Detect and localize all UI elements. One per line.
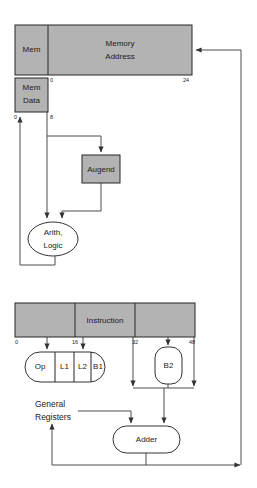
instruction-field-group: Op L1 L2 B1 (25, 352, 105, 382)
general-registers-annotation: General Registers (35, 399, 71, 422)
instruction-bit-16: 16 (72, 339, 78, 345)
wire-adder-to-memory-address (196, 50, 241, 465)
arith-logic-label-line1: Arith, (44, 228, 63, 237)
diagram-canvas: Mem Memory Address 0 24 Mem Data 0 8 Aug… (0, 0, 257, 488)
instruction-bit-32: 32 (132, 339, 138, 345)
adder-unit: Adder (113, 426, 180, 453)
field-l1-label: L1 (60, 362, 69, 371)
instruction-bit-0: 0 (15, 339, 18, 345)
field-l2-label: L2 (78, 362, 87, 371)
datapath-diagram: Mem Memory Address 0 24 Mem Data 0 8 Aug… (0, 0, 257, 488)
instruction-label: Instruction (87, 316, 124, 325)
field-op-label: Op (35, 362, 46, 371)
wire-memdata-to-augend (47, 112, 101, 152)
mem-data-bit-8: 8 (50, 114, 53, 120)
memory-address-register: Mem Memory Address 0 24 (15, 25, 192, 83)
mem-data-label-line1: Mem (23, 83, 41, 92)
mem-data-label-line2: Data (23, 96, 40, 105)
wire-collector-bus-to-adder (133, 388, 194, 423)
mem-data-bit-0: 0 (14, 114, 17, 120)
augend-label: Augend (87, 165, 115, 174)
general-registers-label-line1: General (35, 399, 65, 409)
general-registers-label-line2: Registers (35, 412, 71, 422)
memory-address-bit-0: 0 (50, 77, 53, 83)
mem-field-label: Mem (23, 45, 41, 54)
wire-augend-to-arithlogic (62, 183, 101, 218)
memory-address-label-line2: Address (105, 52, 134, 61)
b2-unit: B2 (155, 347, 182, 384)
arith-logic-label-line2: Logic (43, 241, 62, 250)
field-b1-label: B1 (93, 362, 103, 371)
b2-label: B2 (164, 361, 174, 370)
adder-label: Adder (136, 435, 158, 444)
arith-logic-unit: Arith, Logic (28, 222, 78, 256)
memory-address-label-line1: Memory (106, 39, 135, 48)
augend-unit: Augend (82, 155, 120, 183)
wire-general-registers-to-adder (78, 411, 131, 423)
instruction-bit-48: 48 (189, 339, 195, 345)
memory-address-bit-24: 24 (183, 77, 189, 83)
